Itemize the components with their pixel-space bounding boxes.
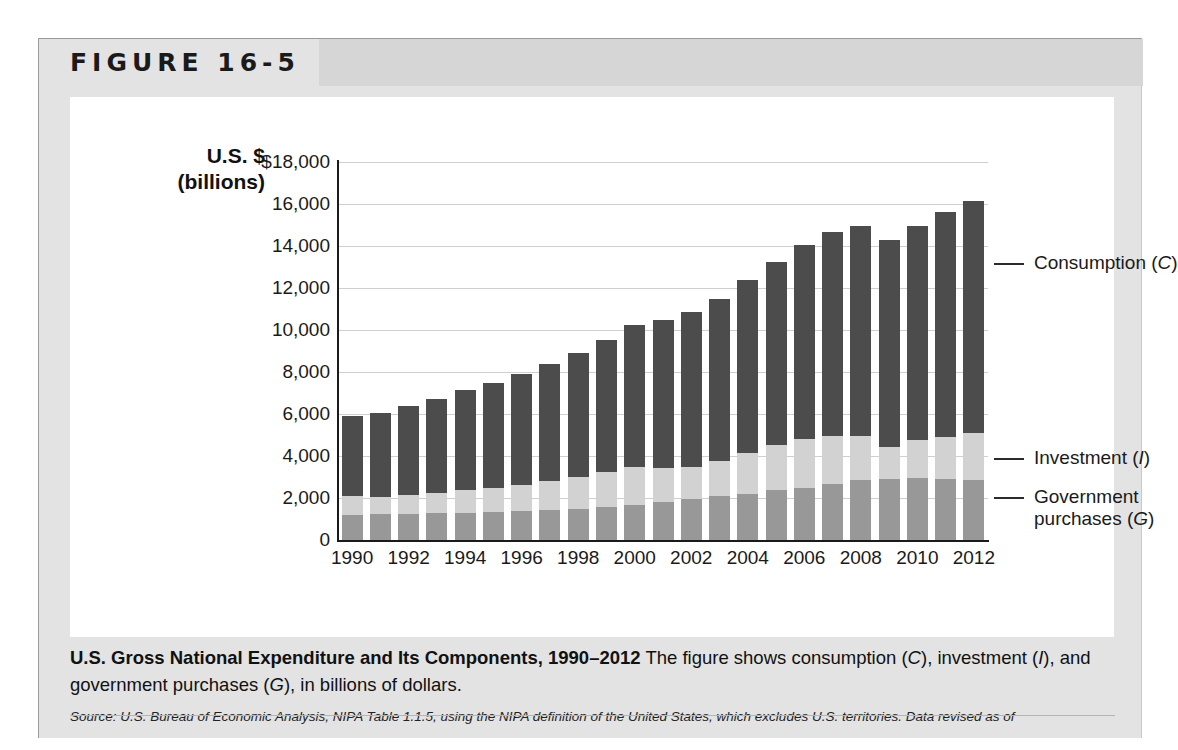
bar-column [709, 162, 730, 540]
bar-column [483, 162, 504, 540]
bar-column [681, 162, 702, 540]
bar-segment-consumption [426, 399, 447, 493]
callout-line-government [994, 497, 1024, 499]
bar-segment-investment [398, 495, 419, 514]
x-axis-tick-label: 2010 [896, 547, 938, 569]
y-axis-tick-label: 0 [319, 529, 330, 551]
bar-column [370, 162, 391, 540]
bar-segment-consumption [850, 226, 871, 436]
bar-column [624, 162, 645, 540]
bar-segment-government [483, 512, 504, 540]
callout-label-consumption: Consumption (C) [1034, 252, 1178, 274]
bar-column [426, 162, 447, 540]
bar-segment-investment [822, 436, 843, 484]
bar-segment-consumption [794, 245, 815, 438]
y-axis-line [337, 160, 339, 542]
y-axis-tick-label: 6,000 [282, 403, 330, 425]
bar-segment-government [766, 490, 787, 540]
bar-column [568, 162, 589, 540]
bar-segment-investment [709, 461, 730, 496]
caption-text: U.S. Gross National Expenditure and Its … [70, 645, 1130, 699]
bar-column [342, 162, 363, 540]
x-axis-tick-label: 2008 [840, 547, 882, 569]
bar-column [850, 162, 871, 540]
bar-segment-consumption [766, 262, 787, 444]
x-axis-tick-label: 2004 [727, 547, 769, 569]
callout-line-consumption [994, 263, 1024, 265]
bar-segment-investment [539, 481, 560, 510]
bar-segment-government [455, 513, 476, 540]
bar-segment-investment [907, 440, 928, 478]
x-axis-tick-label: 1996 [501, 547, 543, 569]
bar-segment-investment [426, 493, 447, 514]
bar-segment-consumption [511, 374, 532, 485]
bar-segment-consumption [624, 325, 645, 468]
bar-segment-government [398, 514, 419, 540]
bar-segment-investment [879, 447, 900, 480]
bar-segment-investment [455, 490, 476, 513]
figure-header: FIGURE 16-5 [39, 39, 1141, 97]
bar-segment-government [879, 479, 900, 540]
bar-segment-consumption [737, 280, 758, 452]
plot-wrapper: 02,0004,0006,0008,00010,00012,00014,0001… [70, 97, 1114, 637]
bar-segment-government [709, 496, 730, 540]
bar-segment-consumption [596, 340, 617, 473]
bar-segment-government [850, 480, 871, 540]
bar-segment-government [822, 484, 843, 540]
y-axis-tick-label: 16,000 [272, 193, 330, 215]
bar-segment-investment [568, 477, 589, 509]
bar-segment-consumption [935, 212, 956, 436]
bar-segment-consumption [455, 390, 476, 490]
x-axis-tick-label: 1990 [331, 547, 373, 569]
bar-column [455, 162, 476, 540]
y-axis-tick-label: 14,000 [272, 235, 330, 257]
bar-segment-government [907, 478, 928, 540]
bar-column [596, 162, 617, 540]
bar-segment-investment [342, 496, 363, 515]
x-axis-tick-label: 2012 [953, 547, 995, 569]
bar-segment-investment [483, 488, 504, 512]
bar-segment-investment [596, 472, 617, 507]
bar-segment-government [794, 488, 815, 541]
bar-segment-investment [935, 437, 956, 479]
x-axis-tick-label: 1994 [444, 547, 486, 569]
callout-line-investment [994, 458, 1024, 460]
figure-caption: U.S. Gross National Expenditure and Its … [70, 645, 1130, 725]
bar-segment-investment [624, 467, 645, 505]
bar-segment-government [935, 479, 956, 540]
bar-segment-government [624, 505, 645, 540]
bar-segment-government [737, 494, 758, 540]
bar-column [398, 162, 419, 540]
bar-segment-consumption [370, 413, 391, 497]
bar-column [794, 162, 815, 540]
bar-column [511, 162, 532, 540]
bar-column [935, 162, 956, 540]
bar-segment-consumption [907, 226, 928, 440]
bar-segment-consumption [879, 240, 900, 447]
source-note: Source: U.S. Bureau of Economic Analysis… [70, 708, 1130, 726]
bar-column [963, 162, 984, 540]
caption-divider [70, 715, 1115, 716]
bar-segment-investment [737, 453, 758, 494]
bar-segment-investment [766, 445, 787, 491]
bar-segment-government [426, 513, 447, 540]
y-axis-tick-label: 10,000 [272, 319, 330, 341]
y-axis-tick-label: 12,000 [272, 277, 330, 299]
bar-segment-consumption [483, 383, 504, 488]
callout-label-government: Governmentpurchases (G) [1034, 486, 1154, 530]
bar-column [879, 162, 900, 540]
figure-panel: FIGURE 16-5 U.S. $ (billions) 02,0004,00… [38, 38, 1142, 738]
bar-segment-government [681, 499, 702, 540]
figure-header-band [319, 39, 1143, 86]
bar-segment-government [370, 514, 391, 540]
bar-segment-investment [653, 468, 674, 502]
bar-segment-consumption [681, 312, 702, 467]
bar-segment-government [342, 515, 363, 540]
bar-segment-government [596, 507, 617, 540]
bar-column [539, 162, 560, 540]
bar-segment-consumption [709, 299, 730, 461]
x-axis-tick-labels: 1990199219941996199820002002200420062008… [338, 547, 988, 577]
bar-segment-investment [370, 497, 391, 514]
x-axis-tick-label: 1992 [388, 547, 430, 569]
bar-segment-government [653, 502, 674, 540]
